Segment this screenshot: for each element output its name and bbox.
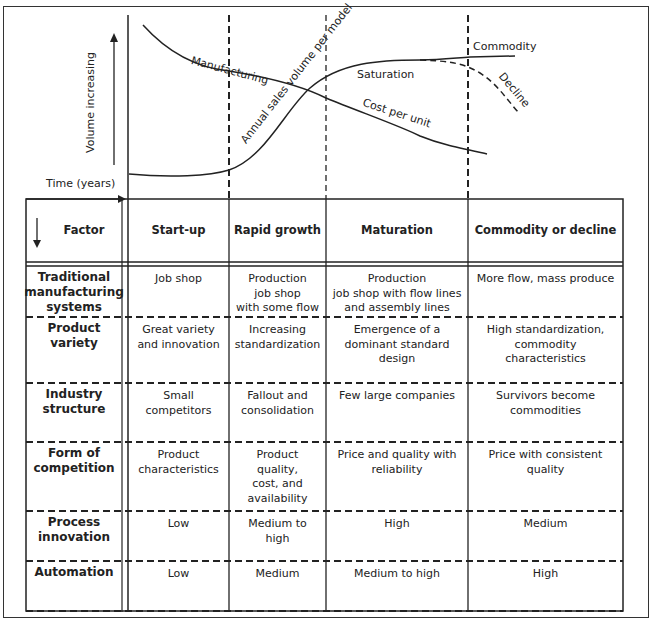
cell-line: quality <box>489 463 603 478</box>
cell-line: competition <box>33 461 114 476</box>
cell-line: Medium <box>524 517 568 532</box>
cell-line: More flow, mass produce <box>477 272 615 287</box>
cell-line: High <box>533 567 558 582</box>
cell-line: innovation <box>38 530 110 545</box>
cell-line: systems <box>24 300 124 315</box>
table-cell: Increasingstandardization <box>229 317 326 383</box>
cell-line: characteristics <box>138 463 219 478</box>
sales-volume-curve <box>129 56 515 176</box>
table-cell: Productcharacteristics <box>128 442 229 511</box>
cell-line: Price with consistent <box>489 448 603 463</box>
row-factor: Productvariety <box>26 317 122 383</box>
table-cell: Smallcompetitors <box>128 383 229 442</box>
table-cell: Fallout andconsolidation <box>229 383 326 442</box>
cell-line: dominant standard <box>345 338 450 353</box>
cell-line: structure <box>43 402 106 417</box>
cell-line: Medium to high <box>354 567 440 582</box>
cell-line: High <box>384 517 409 532</box>
cell-line: Form of <box>33 446 114 461</box>
header-rapid-growth: Rapid growth <box>229 199 326 262</box>
table-cell: Productionjob shopwith some flow <box>229 266 326 317</box>
cell-line: and assembly lines <box>333 301 462 316</box>
y-axis-label: Volume increasing <box>84 52 97 153</box>
header-commodity-decline: Commodity or decline <box>468 199 623 262</box>
cell-line: Medium <box>256 567 300 582</box>
table-cell: High <box>326 511 468 561</box>
table-cell: Low <box>128 511 229 561</box>
header-factor: Factor <box>46 199 122 262</box>
table-cell: High <box>468 561 623 611</box>
row-factor: Processinnovation <box>26 511 122 561</box>
table-cell: Low <box>128 561 229 611</box>
cell-line: Product <box>138 448 219 463</box>
row-factor: Industrystructure <box>26 383 122 442</box>
cell-line: characteristics <box>487 352 605 367</box>
cell-line: job shop <box>236 287 319 302</box>
cell-line: Low <box>168 517 190 532</box>
cell-line: Medium to <box>248 517 307 532</box>
cell-line: Process <box>38 515 110 530</box>
table-cell: Great varietyand innovation <box>128 317 229 383</box>
cell-line: Product <box>48 321 101 336</box>
cell-line: Emergence of a <box>345 323 450 338</box>
cell-line: consolidation <box>241 404 314 419</box>
cell-line: Production <box>333 272 462 287</box>
cell-line: job shop with flow lines <box>333 287 462 302</box>
cell-line: design <box>345 352 450 367</box>
table-cell: Medium <box>229 561 326 611</box>
cell-line: with some flow <box>236 301 319 316</box>
cell-line: Traditional <box>24 270 124 285</box>
cell-line: standardization <box>235 338 320 353</box>
table-cell: Job shop <box>128 266 229 317</box>
saturation-label: Saturation <box>357 68 414 81</box>
cell-line: high <box>248 532 307 547</box>
cell-line: Production <box>236 272 319 287</box>
cell-line: Product <box>248 448 308 463</box>
cell-line: manufacturing <box>24 285 124 300</box>
row-factor: Traditionalmanufacturingsystems <box>26 266 122 317</box>
table-cell: Emergence of adominant standarddesign <box>326 317 468 383</box>
cell-line: High standardization, <box>487 323 605 338</box>
header-maturation: Maturation <box>326 199 468 262</box>
row-factor: Form ofcompetition <box>26 442 122 511</box>
table-cell: Survivors becomecommodities <box>468 383 623 442</box>
cell-line: Price and quality with <box>338 448 457 463</box>
cell-line: reliability <box>338 463 457 478</box>
x-axis-label: Time (years) <box>46 177 115 190</box>
cell-line: Low <box>168 567 190 582</box>
cell-line: Increasing <box>235 323 320 338</box>
table-cell: High standardization,commoditycharacteri… <box>468 317 623 383</box>
table-cell: Price with consistentquality <box>468 442 623 511</box>
table-cell: Few large companies <box>326 383 468 442</box>
header-start-up: Start-up <box>128 199 229 262</box>
cell-line: quality, <box>248 463 308 478</box>
cell-line: Small <box>146 389 212 404</box>
table-cell: Medium to high <box>326 561 468 611</box>
cell-line: commodities <box>496 404 595 419</box>
cell-line: competitors <box>146 404 212 419</box>
commodity-label: Commodity <box>473 40 536 53</box>
table-cell: Productquality,cost, andavailability <box>229 442 326 511</box>
table-cell: More flow, mass produce <box>468 266 623 317</box>
table-cell: Medium tohigh <box>229 511 326 561</box>
cell-line: Great variety <box>137 323 219 338</box>
table-cell: Productionjob shop with flow linesand as… <box>326 266 468 317</box>
table-cell: Price and quality withreliability <box>326 442 468 511</box>
cell-line: Job shop <box>155 272 202 287</box>
cell-line: availability <box>248 492 308 507</box>
cell-line: Fallout and <box>241 389 314 404</box>
cell-line: and innovation <box>137 338 219 353</box>
cell-line: Automation <box>34 565 113 580</box>
cell-line: variety <box>48 336 101 351</box>
cell-line: Few large companies <box>339 389 455 404</box>
cell-line: cost, and <box>248 477 308 492</box>
cell-line: Survivors become <box>496 389 595 404</box>
cell-line: Industry <box>43 387 106 402</box>
table-cell: Medium <box>468 511 623 561</box>
cell-line: commodity <box>487 338 605 353</box>
row-factor: Automation <box>26 561 122 611</box>
